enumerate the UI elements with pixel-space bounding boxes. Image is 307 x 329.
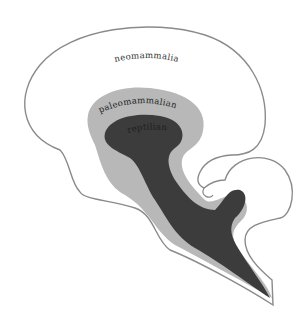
triune-brain-diagram: neomammalian paleomammalian reptilian: [0, 0, 307, 329]
